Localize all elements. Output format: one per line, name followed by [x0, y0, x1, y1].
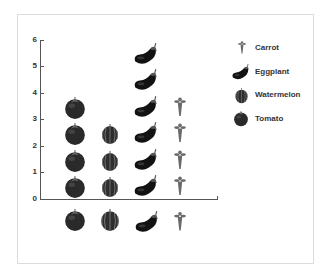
y-tick-2: [40, 146, 44, 147]
y-tick-1: [40, 172, 44, 173]
y-tick-3: [40, 119, 44, 120]
eggplant-icon: [133, 122, 158, 144]
y-label-4: 4: [27, 89, 37, 97]
y-tick-5: [40, 66, 44, 67]
carrot-icon: [171, 173, 189, 199]
eggplant-icon: [133, 175, 158, 197]
tomato-icon: [64, 150, 86, 173]
carrot-icon: [171, 94, 189, 120]
legend-label-eggplant: Eggplant: [255, 67, 289, 77]
eggplant-icon: [133, 43, 158, 65]
y-label-1: 1: [27, 168, 37, 176]
watermelon-icon: [100, 150, 120, 173]
tomato-icon: [64, 97, 86, 120]
y-tick-0: [40, 199, 44, 200]
y-label-0: 0: [27, 195, 37, 203]
carrot-icon: [171, 120, 189, 146]
y-tick-6: [40, 40, 44, 41]
legend-watermelon-icon: [234, 88, 249, 104]
y-label-2: 2: [27, 142, 37, 150]
x-label-carrot-icon: [171, 208, 189, 235]
legend-label-carrot: Carrot: [255, 43, 279, 53]
legend-tomato-icon: [233, 111, 249, 127]
x-axis-end-tick: [217, 196, 218, 200]
y-axis: [40, 40, 41, 200]
x-axis: [40, 199, 218, 200]
y-label-6: 6: [27, 36, 37, 44]
eggplant-icon: [133, 96, 158, 118]
x-label-eggplant-icon: [134, 211, 159, 233]
watermelon-icon: [100, 123, 120, 146]
x-label-watermelon-icon: [99, 208, 121, 233]
legend-label-watermelon: Watermelon: [255, 90, 301, 100]
tomato-icon: [64, 176, 86, 199]
y-label-5: 5: [27, 62, 37, 70]
x-label-tomato-icon: [64, 209, 86, 232]
tomato-icon: [64, 123, 86, 146]
legend-carrot-icon: [236, 39, 248, 56]
eggplant-icon: [133, 69, 158, 91]
y-label-3: 3: [27, 115, 37, 123]
carrot-icon: [171, 147, 189, 173]
y-tick-4: [40, 93, 44, 94]
watermelon-icon: [100, 176, 120, 199]
legend-label-tomato: Tomato: [255, 114, 283, 124]
eggplant-icon: [133, 149, 158, 171]
legend-eggplant-icon: [230, 64, 251, 80]
